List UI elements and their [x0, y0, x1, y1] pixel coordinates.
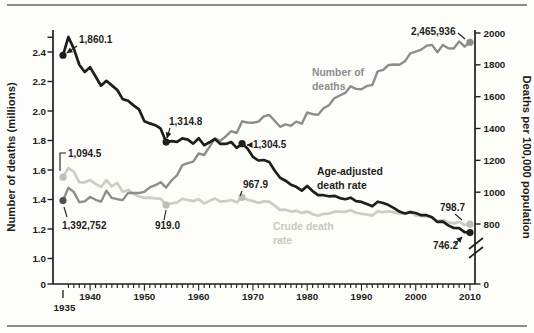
- x-axis-decade-label: 1960: [188, 291, 210, 302]
- annotation-value: 1,392,752: [62, 220, 107, 231]
- right-axis-break-slash: [469, 238, 483, 249]
- annotation-value: 1,860.1: [79, 34, 113, 45]
- x-axis-decade-label: 1940: [79, 291, 101, 302]
- series-label-line: rate: [273, 235, 292, 246]
- annotation-leader: [64, 207, 67, 217]
- annotation-leader: [60, 153, 66, 171]
- annotation-value: 798.7: [440, 202, 465, 213]
- annotation-value: 1,094.5: [68, 148, 102, 159]
- annotation-leader: [455, 214, 462, 220]
- right-axis-tick-label: 1600: [484, 91, 506, 102]
- right-axis-tick-label: 1000: [484, 187, 506, 198]
- right-axis-break-slash: [469, 247, 483, 258]
- annotation-value: 1,304.5: [253, 139, 287, 150]
- data-point-crude-1954: [163, 201, 170, 208]
- left-axis-title: Number of deaths (millions): [5, 82, 17, 232]
- left-axis-tick-label: 2.4: [32, 47, 46, 58]
- left-axis-tick-label: 1.8: [32, 135, 46, 146]
- right-axis-tick-label: 1200: [484, 155, 506, 166]
- bottom-rule: [7, 325, 527, 327]
- data-point-crude-1935: [59, 174, 66, 181]
- x-axis-decade-label: 1990: [351, 291, 373, 302]
- right-axis-tick-label: 2000: [484, 28, 506, 39]
- right-axis-title: Deaths per 100,000 population: [521, 75, 533, 238]
- data-point-age-2010: [466, 229, 473, 236]
- x-axis-decade-label: 1950: [134, 291, 156, 302]
- x-axis-decade-label: 2010: [459, 291, 481, 302]
- x-axis-decade-label: 2000: [405, 291, 427, 302]
- left-axis-tick-label: 2.2: [32, 76, 46, 87]
- annotation-leader: [164, 210, 166, 220]
- x-axis-decade-label: 1970: [242, 291, 264, 302]
- annotation-value: 1,314.8: [169, 116, 203, 127]
- data-point-deaths-1935: [59, 197, 66, 204]
- data-point-deaths-2010: [466, 39, 473, 46]
- left-axis-tick-label: 0: [41, 279, 47, 290]
- data-point-crude-1968: [238, 194, 245, 201]
- series-label-line: Crude death: [273, 221, 334, 232]
- series-label-line: Number of: [312, 67, 364, 78]
- series-label-line: death rate: [317, 180, 367, 191]
- annotation-leader: [167, 128, 170, 138]
- x-axis-decade-label: 1980: [296, 291, 318, 302]
- left-axis-tick-label: 1.4: [32, 194, 46, 205]
- x-axis-first-year-label: 1935: [54, 302, 76, 313]
- left-axis-tick-label: 1.2: [32, 224, 46, 235]
- annotation-value: 746.2: [433, 240, 458, 251]
- left-axis-tick-label: 2.0: [32, 106, 46, 117]
- data-point-crude-2010: [466, 221, 473, 228]
- right-axis-tick-label: 800: [484, 219, 501, 230]
- data-point-age-1968: [238, 140, 245, 147]
- annotation-leader: [458, 33, 465, 39]
- data-point-age-1954: [163, 138, 170, 145]
- right-axis-tick-label: 1400: [484, 123, 506, 134]
- annotation-value: 919.0: [155, 220, 180, 231]
- right-axis-tick-label: 0: [484, 279, 490, 290]
- deaths-and-death-rates-chart: 2.42.22.01.81.61.41.21.00200018001600140…: [0, 0, 534, 333]
- right-axis-tick-label: 1800: [484, 59, 506, 70]
- mortality-trends-figure: 2.42.22.01.81.61.41.21.00200018001600140…: [0, 0, 534, 333]
- annotation-value: 967.9: [243, 179, 268, 190]
- data-point-age-1935: [59, 52, 66, 59]
- series-label-line: Age-adjusted: [317, 166, 383, 177]
- left-axis-tick-label: 1.6: [32, 165, 46, 176]
- series-label-line: deaths: [312, 81, 346, 92]
- annotation-value: 2,465,936: [411, 26, 456, 37]
- left-axis-tick-label: 1.0: [32, 253, 46, 264]
- series-line-age: [63, 37, 470, 233]
